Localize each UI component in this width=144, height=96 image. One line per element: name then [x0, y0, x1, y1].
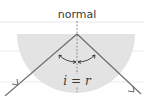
reflection-diagram: normal i = r — [0, 0, 144, 96]
normal-label: normal — [58, 8, 97, 21]
equation-label: i = r — [63, 74, 92, 88]
reflected-arrow-icon — [128, 86, 134, 92]
